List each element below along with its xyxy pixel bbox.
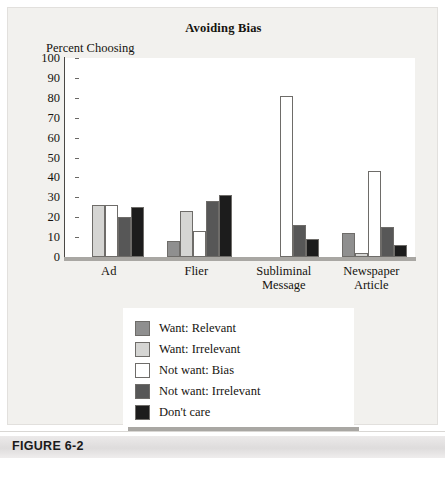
y-axis-tick-label: 100 xyxy=(41,51,60,66)
y-axis-tick-label: 80 xyxy=(48,90,61,105)
bar xyxy=(219,195,232,257)
bar xyxy=(381,227,394,257)
bar xyxy=(368,171,381,257)
bar xyxy=(306,239,319,257)
x-axis-category-labels: AdFlierSubliminalMessageNewspaperArticle xyxy=(65,264,415,304)
x-axis-category-label: Ad xyxy=(65,264,153,278)
legend-item: Don't care xyxy=(135,403,210,422)
bar-group xyxy=(342,58,407,257)
x-axis-category-line: Newspaper xyxy=(328,264,416,278)
bar xyxy=(293,225,306,257)
y-axis-tick-label: 0 xyxy=(54,250,60,265)
bar xyxy=(193,231,206,257)
y-axis-tick-label: 90 xyxy=(48,70,61,85)
chart-title: Avoiding Bias xyxy=(8,21,439,36)
chart-legend: Want: RelevantWant: IrrelevantNot want: … xyxy=(123,308,354,426)
legend-label: Not want: Bias xyxy=(159,363,234,378)
y-axis-tick-label: 20 xyxy=(48,210,61,225)
x-axis-category-line: Subliminal xyxy=(240,264,328,278)
bar xyxy=(167,241,180,257)
y-axis-tick-label: 30 xyxy=(48,190,61,205)
bar xyxy=(105,205,118,257)
x-axis-line xyxy=(64,257,416,261)
legend-item: Want: Relevant xyxy=(135,319,236,338)
bar xyxy=(206,201,219,257)
figure-caption: FIGURE 6-2 xyxy=(12,439,84,453)
legend-label: Not want: Irrelevant xyxy=(159,384,260,399)
y-axis-tick-label: 40 xyxy=(48,170,61,185)
bar xyxy=(342,233,355,257)
x-axis-category-label: Flier xyxy=(153,264,241,278)
bar xyxy=(118,217,131,257)
x-axis-category-label: SubliminalMessage xyxy=(240,264,328,292)
bar-groups xyxy=(65,58,415,257)
bar-group xyxy=(167,58,232,257)
y-axis-tick-label: 50 xyxy=(48,150,61,165)
legend-swatch xyxy=(135,321,150,336)
legend-swatch xyxy=(135,342,150,357)
x-axis-category-line: Flier xyxy=(153,264,241,278)
chart-panel: Avoiding Bias Percent Choosing 010203040… xyxy=(7,7,438,425)
legend-item: Not want: Bias xyxy=(135,361,234,380)
figure-container: Avoiding Bias Percent Choosing 010203040… xyxy=(0,0,445,489)
caption-divider xyxy=(0,431,445,432)
y-axis-tick-labels: 0102030405060708090100 xyxy=(18,58,60,257)
legend-item: Not want: Irrelevant xyxy=(135,382,260,401)
bar xyxy=(131,207,144,257)
legend-swatch xyxy=(135,384,150,399)
bar xyxy=(92,205,105,257)
x-axis-category-line: Message xyxy=(240,278,328,292)
bar-group xyxy=(254,58,319,257)
legend-swatch xyxy=(135,405,150,420)
bar xyxy=(355,253,368,257)
bar-group xyxy=(79,58,144,257)
x-axis-category-label: NewspaperArticle xyxy=(328,264,416,292)
legend-label: Don't care xyxy=(159,405,210,420)
y-axis-tick-label: 60 xyxy=(48,130,61,145)
bar xyxy=(180,211,193,257)
bar xyxy=(394,245,407,257)
y-axis-tick-label: 10 xyxy=(48,230,61,245)
bar xyxy=(280,96,293,257)
legend-item: Want: Irrelevant xyxy=(135,340,240,359)
legend-label: Want: Irrelevant xyxy=(159,342,240,357)
x-axis-category-line: Ad xyxy=(65,264,153,278)
legend-label: Want: Relevant xyxy=(159,321,236,336)
legend-swatch xyxy=(135,363,150,378)
y-axis-tick-label: 70 xyxy=(48,110,61,125)
x-axis-category-line: Article xyxy=(328,278,416,292)
